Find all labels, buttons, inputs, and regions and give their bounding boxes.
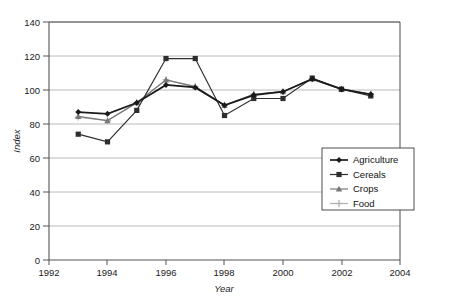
data-series-layer [75, 56, 374, 145]
x-tick-label: 2002 [331, 267, 352, 278]
y-tick-label: 120 [24, 51, 40, 62]
data-point [193, 56, 198, 61]
x-axis-tick-labels: 1992 1994 1996 1998 2000 2002 2004 [38, 267, 410, 278]
series-line [78, 59, 371, 142]
series-cereals [76, 56, 374, 145]
line-chart: 140 120 100 80 60 40 20 0 1992 1994 1996… [0, 0, 453, 307]
plot-frame [49, 22, 400, 260]
y-tick-label: 140 [24, 17, 40, 28]
x-axis-ticks [49, 260, 400, 265]
series-agriculture [75, 76, 374, 117]
chart-container: 140 120 100 80 60 40 20 0 1992 1994 1996… [0, 0, 453, 307]
y-axis-tick-labels: 140 120 100 80 60 40 20 0 [24, 17, 40, 266]
legend-label: Food [353, 198, 375, 209]
y-tick-label: 80 [29, 119, 40, 130]
data-point [105, 111, 111, 117]
y-tick-label: 0 [35, 255, 40, 266]
legend-marker-square-icon [336, 172, 341, 177]
legend-label: Cereals [353, 169, 386, 180]
y-axis-ticks [43, 22, 49, 260]
data-point [76, 132, 81, 137]
x-tick-label: 1992 [38, 267, 59, 278]
x-tick-label: 1996 [155, 267, 176, 278]
y-tick-label: 60 [29, 153, 40, 164]
y-axis-title: Index [11, 128, 22, 152]
chart-legend[interactable]: AgricultureCerealsCropsFood [322, 148, 414, 210]
data-point [105, 139, 110, 144]
axis-lines [49, 22, 400, 260]
x-tick-label: 2000 [272, 267, 293, 278]
y-tick-label: 40 [29, 187, 40, 198]
data-point [163, 56, 168, 61]
legend-label: Crops [353, 183, 379, 194]
x-tick-label: 2004 [389, 267, 410, 278]
data-point [222, 113, 227, 118]
x-tick-label: 1994 [96, 267, 117, 278]
data-point [75, 109, 81, 115]
legend-label: Agriculture [353, 154, 398, 165]
data-point [280, 96, 285, 101]
y-tick-label: 20 [29, 221, 40, 232]
y-tick-label: 100 [24, 85, 40, 96]
x-axis-title: Year [214, 283, 234, 294]
data-point [134, 108, 139, 113]
x-tick-label: 1998 [213, 267, 234, 278]
